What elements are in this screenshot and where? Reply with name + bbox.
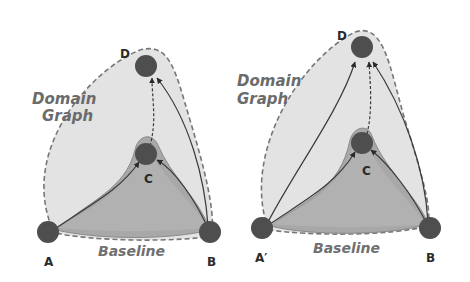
label-a-prime: A′ (255, 251, 267, 265)
diagram-canvas: D C A B Domain Graph Baseline D C A′ B D… (0, 0, 470, 282)
label-a: A (44, 255, 54, 269)
node-d (135, 55, 157, 77)
right-panel: D C A′ B Domain Graph Baseline (237, 29, 441, 265)
baseline-label: Baseline (313, 240, 380, 256)
node-a-prime (251, 217, 273, 239)
label-c: C (362, 164, 371, 178)
node-c (135, 143, 157, 165)
left-panel: D C A B Domain Graph Baseline (32, 47, 221, 269)
label-d: D (120, 47, 130, 61)
baseline-label: Baseline (98, 243, 165, 259)
node-a (37, 221, 59, 243)
domain-graph-title-line1: Domain (32, 90, 96, 108)
label-d: D (337, 29, 347, 43)
node-b (419, 217, 441, 239)
label-c: C (144, 172, 153, 186)
domain-graph-title-line2: Graph (42, 107, 93, 125)
domain-graph-title-line1: Domain (237, 72, 301, 90)
domain-graph-title-line2: Graph (237, 90, 288, 108)
label-b: B (426, 251, 435, 265)
label-b: B (207, 255, 216, 269)
node-b (199, 221, 221, 243)
node-d (351, 36, 373, 58)
node-c (351, 132, 373, 154)
